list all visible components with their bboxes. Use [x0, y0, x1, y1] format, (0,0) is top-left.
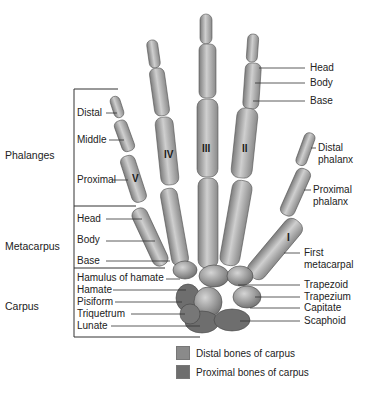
- legend-swatch-distal: [176, 346, 190, 360]
- label-scaphoid: Scaphoid: [304, 315, 346, 327]
- label-pisiform: Pisiform: [77, 296, 113, 308]
- label-metacarpal-head: Head: [77, 213, 101, 225]
- group-label-phalanges: Phalanges: [5, 149, 55, 161]
- group-label-carpus: Carpus: [5, 300, 39, 312]
- label-thumb-proximal-line2: phalanx: [313, 196, 348, 208]
- label-phalanx-body: Body: [310, 77, 333, 89]
- group-label-metacarpus: Metacarpus: [5, 240, 60, 252]
- label-phalanx-head: Head: [310, 62, 334, 74]
- label-distal-phalanx: Distal: [77, 107, 102, 119]
- label-proximal-phalanx: Proximal: [77, 174, 116, 186]
- label-thumb-distal-line1: Distal: [318, 142, 343, 154]
- label-triquetrum: Triquetrum: [77, 308, 125, 320]
- label-middle-phalanx: Middle: [77, 134, 106, 146]
- label-metacarpal-body: Body: [77, 234, 100, 246]
- legend-swatch-proximal: [176, 365, 190, 379]
- carpal-bones: [173, 261, 261, 333]
- label-lunate: Lunate: [77, 320, 108, 332]
- label-capitate: Capitate: [304, 302, 341, 314]
- numeral-i: I: [287, 232, 290, 243]
- finger-ii-bones: [219, 34, 262, 267]
- legend-item-proximal-carpus: Proximal bones of carpus: [176, 365, 309, 379]
- legend-item-distal-carpus: Distal bones of carpus: [176, 346, 295, 360]
- label-thumb-proximal-line1: Proximal: [313, 184, 352, 196]
- label-first-metacarpal-line1: First: [304, 247, 323, 259]
- label-phalanx-base: Base: [310, 95, 333, 107]
- legend-label-distal: Distal bones of carpus: [196, 348, 295, 359]
- label-hamulus-of-hamate: Hamulus of hamate: [77, 272, 164, 284]
- numeral-iv: IV: [164, 149, 173, 160]
- legend-label-proximal: Proximal bones of carpus: [196, 367, 309, 378]
- label-first-metacarpal-line2: metacarpal: [304, 259, 353, 271]
- finger-iii-bones: [197, 14, 218, 268]
- numeral-v: V: [132, 173, 139, 184]
- label-thumb-distal-line2: phalanx: [318, 154, 353, 166]
- numeral-iii: III: [202, 143, 210, 154]
- label-hamate: Hamate: [77, 284, 112, 296]
- hand-skeleton-illustration: [0, 0, 366, 393]
- label-metacarpal-base: Base: [77, 255, 100, 267]
- label-trapezoid: Trapezoid: [304, 279, 348, 291]
- numeral-ii: II: [242, 143, 248, 154]
